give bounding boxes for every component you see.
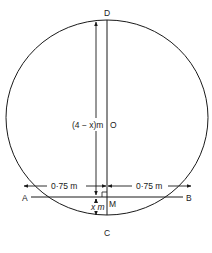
point-label-a: A — [22, 193, 28, 203]
label-upper-segment: (4 − x)m — [72, 120, 103, 130]
point-label-d: D — [104, 8, 110, 18]
right-angle-marker — [102, 192, 107, 197]
point-label-m: M — [109, 199, 116, 209]
label-left-half-chord: 0·75 m — [51, 181, 77, 191]
point-label-o: O — [110, 120, 117, 130]
circle-chord-diagram: D O A B M C (4 − x)m x m 0·75 m 0·75 m — [0, 0, 212, 253]
point-label-c: C — [104, 228, 110, 238]
label-lower-segment: x m — [90, 202, 105, 212]
label-right-half-chord: 0·75 m — [136, 181, 162, 191]
point-label-b: B — [186, 193, 192, 203]
